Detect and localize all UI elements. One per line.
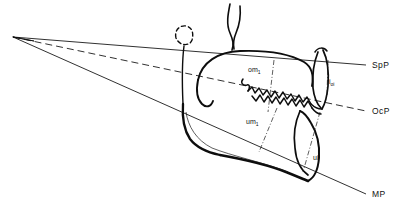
maxillary-tuberosity	[242, 79, 250, 91]
anterior-process-line	[182, 46, 184, 104]
cephalogram-drawing: om1 ioi um1 ui SpP OcP MP	[0, 0, 402, 211]
plane-labels: SpP OcP MP	[372, 60, 390, 199]
nasal-bone-curve-left	[228, 4, 233, 50]
label-i-oi: ioi	[329, 78, 334, 87]
premaxilla-crest	[315, 48, 327, 52]
label-om1: om1	[248, 66, 261, 75]
nasal-bone-curve-right	[233, 6, 240, 49]
skull-anatomy	[176, 4, 329, 181]
cephalometric-figure: om1 ioi um1 ui SpP OcP MP	[0, 0, 402, 211]
reference-planes	[13, 37, 366, 194]
plane-label-mp: MP	[372, 189, 386, 199]
label-um1: um1	[246, 118, 259, 127]
upper-incisor-outline	[313, 52, 321, 108]
plane-label-ocp: OcP	[372, 106, 390, 116]
upper-incisor-labial-curve	[322, 50, 328, 109]
mandible-lower-border	[220, 155, 308, 181]
pterygoid-hook	[197, 80, 213, 106]
label-ui: ui	[313, 154, 319, 161]
dashed-bone-fragment-outline	[176, 26, 193, 45]
mandibular-ramus-outline	[183, 104, 220, 155]
leader-um1	[259, 108, 277, 152]
plane-label-spp: SpP	[372, 60, 389, 70]
leader-om1	[268, 60, 274, 112]
